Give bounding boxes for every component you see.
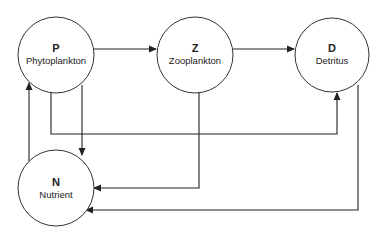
edge-z-to-n	[94, 92, 199, 188]
node-n: N Nutrient	[18, 150, 94, 226]
node-z: Z Zooplankton	[157, 17, 233, 93]
node-d-letter: D	[328, 42, 336, 54]
node-p: P Phytoplankton	[18, 17, 94, 93]
node-p-name: Phytoplankton	[26, 55, 86, 66]
node-z-letter: Z	[192, 42, 199, 54]
npzd-diagram: P Phytoplankton Z Zooplankton D Detritus…	[0, 0, 383, 231]
node-p-letter: P	[52, 42, 59, 54]
node-z-name: Zooplankton	[169, 55, 221, 66]
node-n-name: Nutrient	[39, 189, 73, 200]
node-d: D Detritus	[295, 18, 369, 92]
node-n-letter: N	[52, 176, 60, 188]
edge-d-to-n	[86, 85, 358, 210]
edge-p-to-d	[51, 92, 337, 134]
node-d-name: Detritus	[316, 55, 349, 66]
